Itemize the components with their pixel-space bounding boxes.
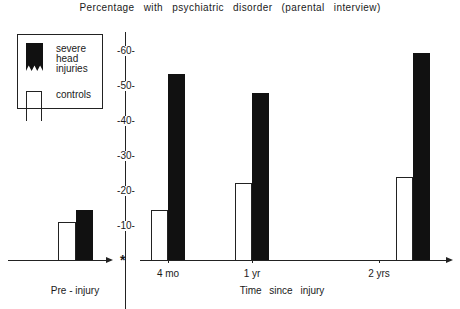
bar-pre-severe [76,210,93,260]
y-axis [125,32,126,309]
bar-4mo-controls [151,210,168,260]
legend-severe-line3: injuries [56,64,88,74]
y-tick-30: -30- [109,151,143,161]
severe-swatch-icon [26,43,43,71]
y-tick-20: -20- [109,186,143,196]
bar-1yr-severe [252,93,269,260]
x-axis [140,260,448,261]
x-tick [168,260,169,263]
y-tick-10: -10- [109,221,143,231]
bar-pre-controls [58,222,76,260]
y-tick-50: -50- [109,81,143,91]
x-axis-title: Time since injury [222,285,342,296]
zero-break-marker: * [120,253,125,267]
x-tick [379,260,380,263]
x-label-2yrs: 2 yrs [359,268,399,279]
bar-4mo-severe [168,74,185,260]
legend: severe head injuries controls [17,34,103,109]
bar-2yrs-controls [396,177,413,260]
y-tick-40: -40- [109,116,143,126]
arrow-right-icon [106,257,113,263]
legend-controls: controls [56,90,91,100]
controls-swatch-icon [26,91,42,121]
chart-title: Percentage with psychiatric disorder (pa… [0,2,460,13]
x-label-4mo: 4 mo [148,268,188,279]
bar-2yrs-severe [413,53,430,260]
y-tick-60: -60- [109,46,143,56]
pre-injury-baseline [8,260,108,261]
x-label-1yr: 1 yr [232,268,272,279]
pre-injury-label: Pre - injury [40,285,110,296]
arrow-right-icon [446,257,453,263]
x-tick [252,260,253,263]
bar-1yr-controls [235,183,252,260]
